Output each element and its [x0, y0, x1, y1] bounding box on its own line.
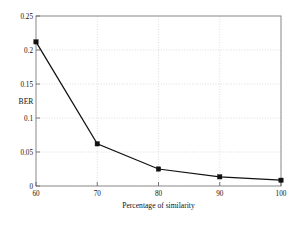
chart-figure: 0 0.05 0.1 0.15 0.2 0.25 60 70 80 90 100… [0, 0, 290, 228]
data-point-60 [34, 40, 38, 44]
xtick-label-2: 80 [155, 190, 163, 198]
xtick-label-1: 70 [94, 190, 102, 198]
y-axis-label: BER [19, 97, 35, 106]
ytick-label-2: 0.1 [24, 115, 33, 123]
line-chart: 0 0.05 0.1 0.15 0.2 0.25 60 70 80 90 100… [0, 0, 290, 228]
x-axis-label: Percentage of similarity [122, 201, 195, 210]
xtick-label-3: 90 [216, 190, 224, 198]
ytick-label-3: 0.15 [20, 81, 33, 89]
xtick-label-4: 100 [276, 190, 287, 198]
ytick-label-5: 0.25 [20, 13, 33, 21]
plot-background [36, 16, 281, 186]
xtick-label-0: 60 [32, 190, 40, 198]
data-point-90 [218, 175, 222, 179]
data-point-70 [95, 142, 99, 146]
ytick-label-4: 0.2 [24, 47, 33, 55]
data-point-100 [279, 178, 283, 182]
ytick-label-1: 0.05 [20, 149, 33, 157]
data-point-80 [156, 167, 160, 171]
